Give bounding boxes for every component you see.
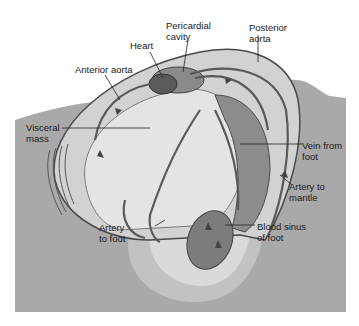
heart-shape — [149, 74, 177, 94]
label-heart: Heart — [130, 40, 153, 51]
label-visceral-mass: Visceral mass — [26, 122, 60, 144]
clam-circulatory-diagram: Heart Pericardial cavity Posterior aorta… — [0, 0, 359, 326]
label-artery-to-foot: Artery to foot — [99, 222, 125, 244]
label-pericardial-cavity: Pericardial cavity — [166, 20, 211, 42]
label-posterior-aorta: Posterior aorta — [249, 22, 287, 44]
label-anterior-aorta: Anterior aorta — [75, 64, 133, 75]
label-artery-to-mantle: Artery to mantle — [289, 181, 325, 203]
label-blood-sinus-of-foot: Blood sinus of foot — [257, 221, 306, 243]
label-vein-from-foot: Vein from foot — [302, 140, 342, 162]
diagram-illustration — [0, 0, 359, 326]
